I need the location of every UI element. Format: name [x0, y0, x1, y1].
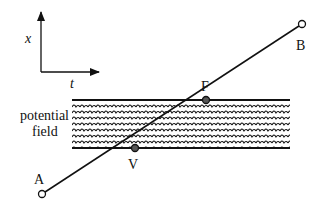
point-V-marker [132, 145, 139, 152]
point-F-marker [203, 97, 210, 104]
point-F-label: F [201, 79, 209, 94]
x-axis-label: x [24, 31, 32, 46]
t-axis-label: t [70, 76, 75, 91]
point-B-marker [299, 21, 306, 28]
field-label-line1: potential [20, 108, 69, 123]
worldline-diagram: x t potential field A B F V [0, 0, 325, 213]
field-label-line2: field [32, 124, 58, 139]
potential-field-band [72, 100, 290, 148]
point-V-label: V [128, 157, 138, 172]
point-B-label: B [296, 38, 305, 53]
point-A-label: A [34, 172, 45, 187]
point-A-marker [39, 191, 46, 198]
axes: x t [24, 12, 99, 91]
